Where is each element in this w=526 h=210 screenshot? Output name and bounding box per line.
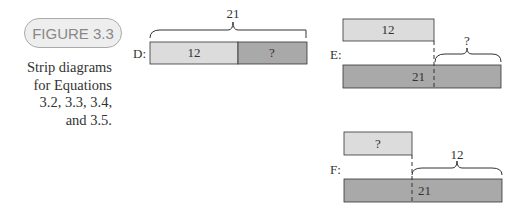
diagram-e-bottom: 21	[412, 69, 425, 84]
diagram-d-label: D:	[133, 46, 146, 61]
diagram-d-part2: ?	[269, 45, 275, 60]
diagram-e: E: 12 21 ?	[330, 19, 501, 88]
diagram-e-label: E:	[330, 47, 342, 62]
diagram-e-brace: ?	[464, 33, 470, 48]
diagram-d-total: 21	[227, 6, 240, 21]
brace-icon	[435, 48, 501, 62]
diagram-e-top: 12	[382, 22, 395, 37]
diagram-d: D: 21 12 ?	[133, 6, 307, 64]
diagram-f-bottom: 21	[418, 183, 431, 198]
diagram-f: F: ? 21 12	[330, 132, 502, 202]
strip-diagrams: D: 21 12 ? E: 12 21 ? F: ? 21 12	[0, 0, 526, 210]
diagram-d-part1: 12	[188, 45, 201, 60]
brace-icon	[412, 161, 502, 175]
diagram-f-brace: 12	[451, 147, 464, 162]
diagram-f-label: F:	[330, 162, 341, 177]
diagram-f-top: ?	[375, 136, 381, 151]
brace-icon	[150, 22, 306, 38]
